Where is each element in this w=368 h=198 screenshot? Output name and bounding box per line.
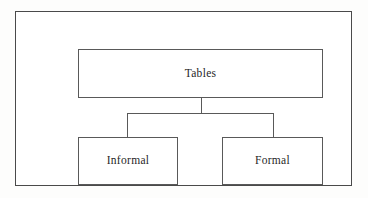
diagram-outer-frame: Tables Informal Formal (15, 11, 352, 186)
node-tables[interactable]: Tables (78, 49, 323, 98)
node-formal-label: Formal (255, 155, 290, 167)
connector-drop-informal (127, 113, 128, 137)
node-informal-label: Informal (107, 155, 150, 167)
node-informal[interactable]: Informal (78, 137, 178, 185)
diagram-canvas: Tables Informal Formal (0, 0, 368, 198)
node-formal[interactable]: Formal (222, 137, 323, 185)
connector-distribution-bar (127, 113, 274, 114)
connector-stem-tables (201, 98, 202, 114)
connector-drop-formal (273, 113, 274, 137)
node-tables-label: Tables (185, 68, 217, 80)
